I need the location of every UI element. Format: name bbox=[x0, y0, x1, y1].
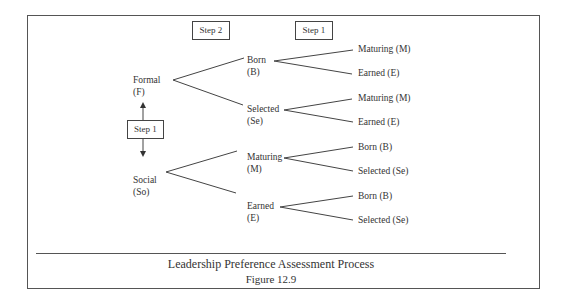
leaf-node: Born (B) bbox=[358, 190, 392, 202]
root-abbr: (So) bbox=[133, 186, 157, 198]
mid-node-born: Born (B) bbox=[247, 54, 266, 78]
caption-divider bbox=[36, 253, 506, 254]
leaf-node: Born (B) bbox=[358, 141, 392, 153]
mid-label: Maturing bbox=[247, 151, 282, 163]
mid-label: Born bbox=[247, 54, 266, 66]
center-step-box: Step 1 bbox=[127, 120, 164, 139]
leaf-node: Earned (E) bbox=[358, 67, 399, 79]
mid-node-selected: Selected (Se) bbox=[247, 103, 279, 127]
mid-abbr: (B) bbox=[247, 66, 266, 78]
leaf-node: Selected (Se) bbox=[358, 214, 408, 226]
root-node-social: Social (So) bbox=[133, 174, 157, 198]
leaf-node: Selected (Se) bbox=[358, 165, 408, 177]
step1-header-box: Step 1 bbox=[295, 21, 333, 40]
leaf-node: Earned (E) bbox=[358, 116, 399, 128]
mid-node-maturing: Maturing (M) bbox=[247, 151, 282, 175]
mid-label: Earned bbox=[247, 200, 274, 212]
figure-number: Figure 12.9 bbox=[36, 273, 506, 286]
root-label: Social bbox=[133, 174, 157, 186]
step2-header-box: Step 2 bbox=[192, 21, 230, 40]
mid-abbr: (M) bbox=[247, 163, 282, 175]
step1-header-label: Step 1 bbox=[303, 25, 326, 35]
mid-node-earned: Earned (E) bbox=[247, 200, 274, 224]
leaf-node: Maturing (M) bbox=[358, 43, 411, 55]
figure-title: Leadership Preference Assessment Process bbox=[36, 257, 506, 271]
mid-abbr: (E) bbox=[247, 212, 274, 224]
step2-header-label: Step 2 bbox=[200, 25, 223, 35]
root-abbr: (F) bbox=[133, 86, 160, 98]
mid-abbr: (Se) bbox=[247, 115, 279, 127]
center-step-label: Step 1 bbox=[134, 124, 157, 134]
root-node-formal: Formal (F) bbox=[133, 74, 160, 98]
leaf-node: Maturing (M) bbox=[358, 92, 411, 104]
mid-label: Selected bbox=[247, 103, 279, 115]
root-label: Formal bbox=[133, 74, 160, 86]
